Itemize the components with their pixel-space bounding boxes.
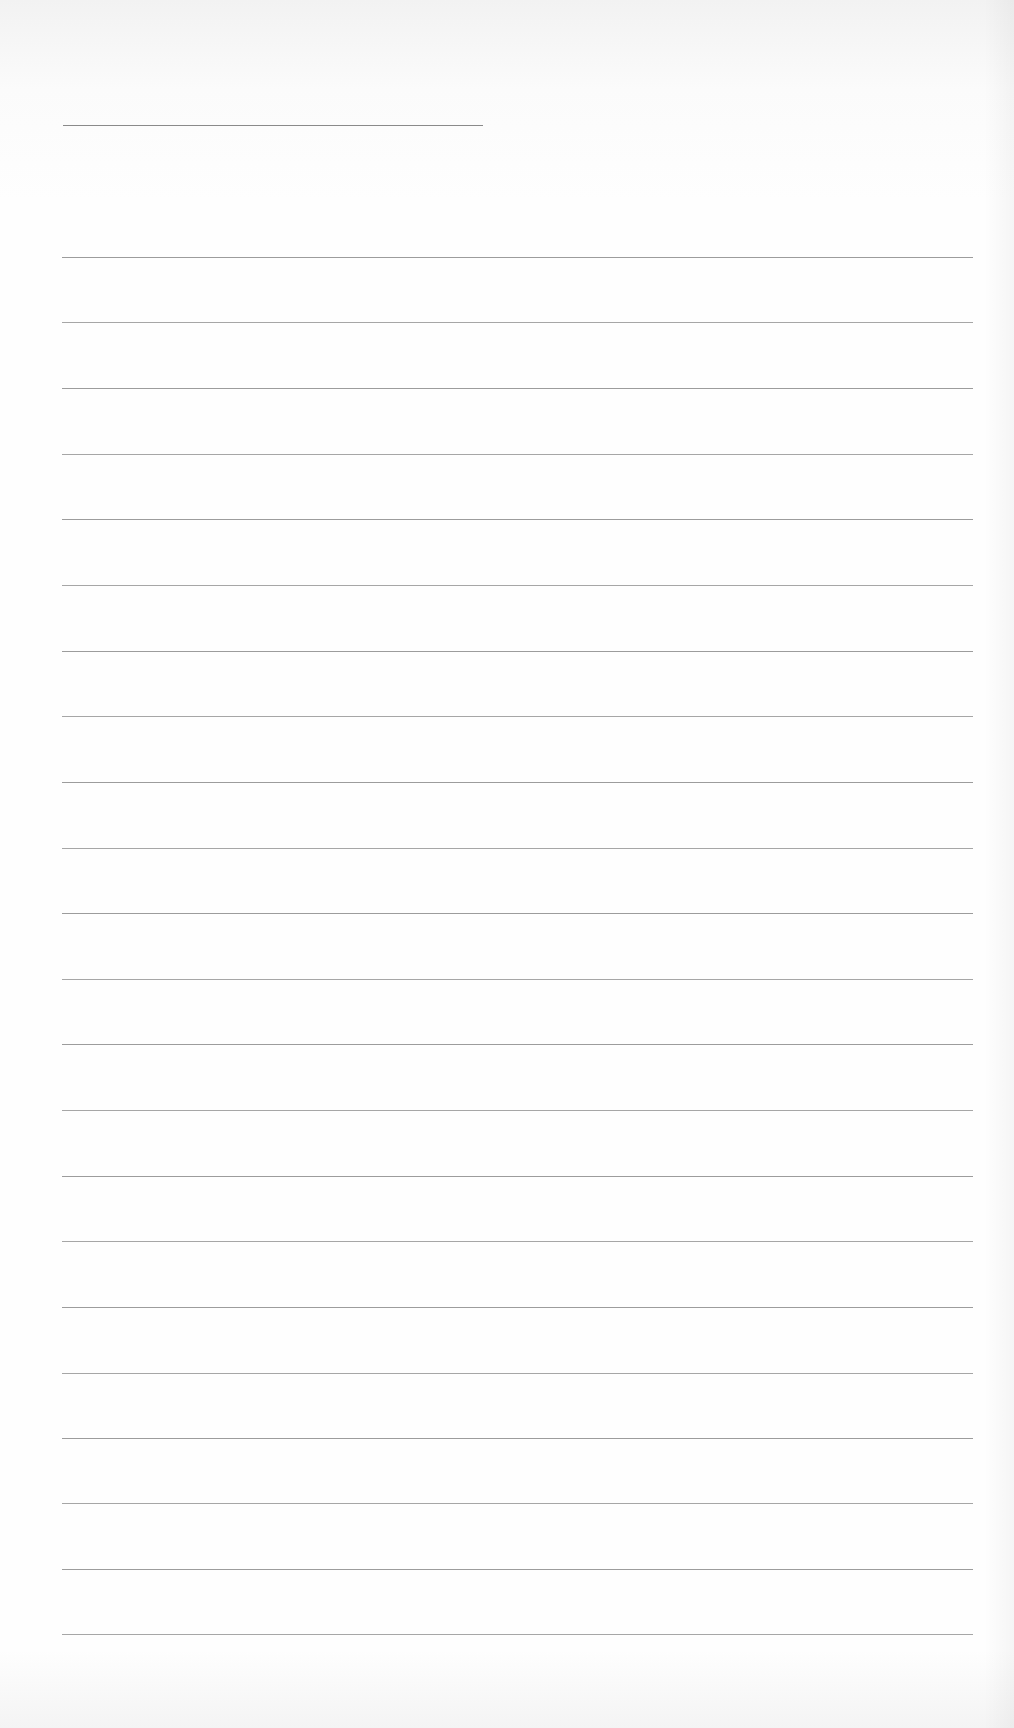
ruled-line [62,1569,973,1570]
ruled-line [62,1110,973,1111]
ruled-line [62,1373,973,1374]
ruled-line [62,716,973,717]
ruled-line [62,519,973,520]
ruled-line [62,322,973,323]
ruled-line [62,585,973,586]
ruled-line [62,913,973,914]
ruled-line [62,1438,973,1439]
page-edge-shadow [984,0,1014,1728]
ruled-line [62,1044,973,1045]
ruled-line [62,1634,973,1635]
ruled-line [62,848,973,849]
ruled-line [62,651,973,652]
ruled-line [62,257,973,258]
ruled-line [62,1241,973,1242]
ruled-line [62,782,973,783]
title-underline [63,125,483,126]
ruled-line [62,1176,973,1177]
ruled-line [62,979,973,980]
ruled-line [62,454,973,455]
ruled-line [62,1307,973,1308]
ruled-line [62,1503,973,1504]
ruled-line [62,388,973,389]
